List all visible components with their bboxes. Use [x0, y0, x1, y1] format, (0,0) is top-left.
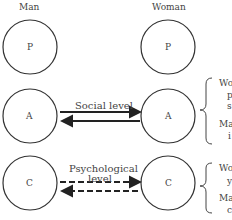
social-note-5: i — [228, 131, 231, 141]
social-note-4: Ma — [219, 119, 232, 129]
psych-note-1: Wo — [219, 163, 232, 173]
psych-level-label-2: level — [88, 173, 112, 184]
social-level-label: Social level — [75, 100, 133, 111]
social-note-3: s — [227, 101, 232, 111]
man-p-label: P — [27, 42, 33, 52]
man-c-label: C — [26, 178, 33, 188]
brace-psych — [200, 163, 212, 213]
social-note-2: p — [227, 90, 232, 100]
woman-header: Woman — [152, 2, 186, 12]
psych-note-3: Ma — [219, 193, 232, 203]
social-note-1: Wo — [219, 78, 232, 88]
brace-social — [200, 78, 212, 144]
man-a-label: A — [26, 111, 33, 121]
woman-a-label: A — [165, 111, 172, 121]
woman-p-label: P — [165, 42, 171, 52]
psych-note-4: c — [227, 205, 232, 215]
woman-c-label: C — [165, 178, 172, 188]
man-header: Man — [19, 2, 39, 12]
psych-note-2: y — [227, 176, 232, 186]
